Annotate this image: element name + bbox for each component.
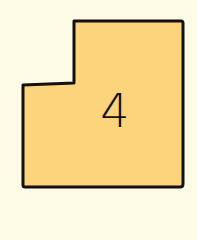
region-number-label: 4 [95, 88, 135, 134]
